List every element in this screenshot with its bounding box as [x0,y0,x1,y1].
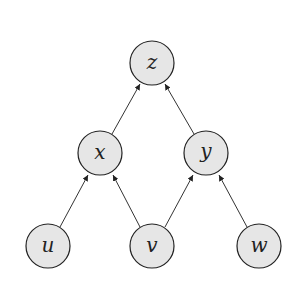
node-label: z [146,50,158,74]
node-label: v [146,233,158,257]
edge-y-to-z [165,84,194,134]
edge-v-to-y [165,175,193,227]
edge-x-to-z [112,84,140,134]
node-label: y [199,139,212,163]
node-label: u [42,233,55,257]
node-y: y [184,131,228,175]
node-w: w [237,224,281,268]
edge-u-to-x [60,175,88,227]
node-z: z [130,41,174,85]
node-label: x [94,140,105,164]
node-v: v [130,224,174,268]
edge-v-to-x [113,175,140,227]
dag-diagram: z x y u v w [0,0,301,294]
node-x: x [78,131,122,175]
edge-w-to-y [219,175,247,227]
node-label: w [250,233,267,257]
node-u: u [26,224,70,268]
